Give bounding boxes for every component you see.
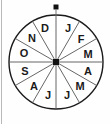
sector-label-april: A [84,65,92,77]
sector-label-march: M [83,48,92,60]
sector-label-august: A [30,80,38,92]
sector-label-november: N [28,32,36,44]
sector-label-may: M [75,80,84,92]
sector-label-february: F [78,33,85,45]
spinner-wheel[interactable]: JFMAMJJASOND [0,0,111,124]
sector-label-october: O [20,47,29,59]
top-pointer-dot [54,5,59,10]
spinner-figure: JFMAMJJASOND [0,0,111,124]
sector-label-december: D [41,22,49,34]
sector-label-january: J [65,22,71,34]
sector-label-september: S [21,65,28,77]
sector-label-july: J [45,89,51,101]
center-hub [53,59,59,65]
sector-label-june: J [64,89,70,101]
